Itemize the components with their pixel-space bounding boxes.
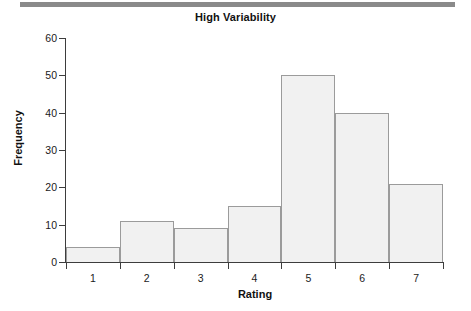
x-axis-tick xyxy=(443,263,444,269)
x-axis-tick-label: 3 xyxy=(181,272,221,284)
x-axis-tick xyxy=(389,263,390,269)
y-axis-tick-label: 10 xyxy=(17,219,57,231)
y-axis-tick xyxy=(59,262,65,263)
x-axis-line xyxy=(66,262,444,263)
chart-title: High Variability xyxy=(0,11,471,23)
x-axis-tick xyxy=(120,263,121,269)
bar xyxy=(120,221,174,262)
x-axis-tick-label: 6 xyxy=(342,272,382,284)
bar xyxy=(281,75,335,262)
x-axis-tick xyxy=(66,263,67,269)
x-axis-tick xyxy=(335,263,336,269)
chart-page: High Variability 0102030405060 Rating Fr… xyxy=(0,0,471,311)
y-axis-tick xyxy=(59,187,65,188)
top-rule-decoration xyxy=(20,2,455,7)
y-axis-title: Frequency xyxy=(12,88,24,188)
x-axis-tick-label: 4 xyxy=(235,272,275,284)
y-axis-tick xyxy=(59,150,65,151)
y-axis-tick xyxy=(59,38,65,39)
x-axis-tick-label: 2 xyxy=(127,272,167,284)
y-axis-tick-label: 60 xyxy=(17,32,57,44)
plot-area xyxy=(66,38,443,262)
x-axis-tick xyxy=(228,263,229,269)
y-axis-tick xyxy=(59,75,65,76)
bar xyxy=(228,206,282,262)
x-axis-tick-label: 1 xyxy=(73,272,113,284)
x-axis-tick-label: 7 xyxy=(396,272,436,284)
y-axis-tick xyxy=(59,113,65,114)
y-axis-tick xyxy=(59,225,65,226)
bar xyxy=(389,184,443,262)
y-axis-tick-label: 50 xyxy=(17,69,57,81)
bar xyxy=(335,113,389,262)
y-axis-tick-label: 0 xyxy=(17,256,57,268)
bar xyxy=(174,228,228,262)
bar xyxy=(66,247,120,262)
x-axis-title: Rating xyxy=(66,288,444,300)
x-axis-tick xyxy=(174,263,175,269)
x-axis-tick xyxy=(281,263,282,269)
x-axis-tick-label: 5 xyxy=(288,272,328,284)
